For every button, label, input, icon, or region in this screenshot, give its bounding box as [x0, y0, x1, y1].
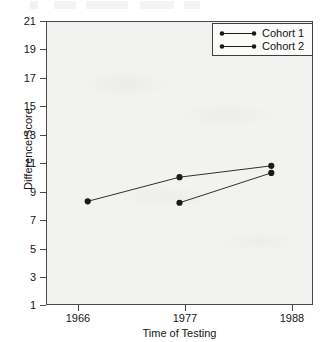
data-point: [176, 174, 182, 180]
data-point: [268, 163, 274, 169]
series-cohort-1: [85, 163, 275, 205]
data-point: [268, 170, 274, 176]
y-tick-label-3: 3: [6, 272, 36, 283]
x-axis-title: Time of Testing: [46, 327, 313, 339]
x-tick-label-1977: 1977: [162, 312, 208, 324]
legend-marker-cohort-2: [217, 41, 259, 52]
chart-legend: Cohort 1 Cohort 2: [212, 23, 313, 56]
legend-label-cohort-2: Cohort 2: [259, 41, 304, 52]
y-tick-1: [40, 305, 46, 306]
legend-marker-cohort-1: [217, 28, 259, 39]
x-tick-1988: [292, 305, 293, 311]
x-tick-label-1988: 1988: [269, 312, 315, 324]
y-tick-label-19: 19: [6, 44, 36, 55]
x-tick-label-1966: 1966: [55, 312, 101, 324]
chart-figure: 21 19 17 15 13 11 9 7 5 3 1 1966 1977 19…: [0, 0, 336, 342]
y-tick-label-5: 5: [6, 244, 36, 255]
x-tick-1977: [185, 305, 186, 311]
legend-entry-cohort-1: Cohort 1: [217, 27, 308, 40]
scan-artifact: [24, 1, 220, 9]
series-line: [88, 166, 272, 202]
series-line: [180, 173, 272, 203]
legend-entry-cohort-2: Cohort 2: [217, 40, 308, 53]
data-point: [176, 200, 182, 206]
series-cohort-2: [176, 170, 274, 206]
x-tick-1966: [78, 305, 79, 311]
y-tick-label-1: 1: [6, 300, 36, 311]
data-point: [85, 198, 91, 204]
legend-label-cohort-1: Cohort 1: [259, 28, 304, 39]
series-layer: [46, 21, 313, 305]
y-tick-label-21: 21: [6, 16, 36, 27]
y-axis-title: Difference Score: [22, 69, 34, 229]
